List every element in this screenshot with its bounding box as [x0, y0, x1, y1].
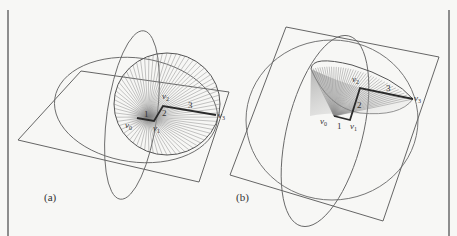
edge-length-3-a: 3	[188, 100, 193, 110]
panel-label-b: (b)	[236, 191, 249, 204]
figure-canvas: v0 v1 v2 v3 1 2 3 (a) v0 v1 v2 v3 1 2 3 …	[0, 0, 457, 236]
panel-b: v0 v1 v2 v3 1 2 3 (b)	[230, 27, 439, 236]
vertex-label-v1-b: v1	[350, 121, 357, 132]
vertex-label-v2-b: v2	[352, 74, 359, 85]
edge-length-1-a: 1	[144, 109, 149, 119]
vertex-label-v3-b: v3	[414, 93, 421, 104]
panel-label-a: (a)	[44, 191, 57, 204]
edge-length-1-b: 1	[337, 121, 342, 131]
vertex-label-v2-a: v2	[162, 91, 169, 102]
vertex-label-v0-b: v0	[320, 116, 327, 127]
vertex-label-v3-a: v3	[218, 110, 225, 121]
cone-hatch-a	[114, 53, 220, 155]
panel-a: v0 v1 v2 v3 1 2 3 (a)	[18, 27, 229, 204]
plane-b	[230, 27, 439, 221]
edge-length-2-b: 2	[357, 100, 362, 110]
edge-length-3-b: 3	[386, 83, 391, 93]
edge-length-2-a: 2	[162, 108, 167, 118]
